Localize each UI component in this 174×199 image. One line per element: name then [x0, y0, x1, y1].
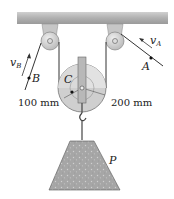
svg-text:A: A	[141, 60, 150, 73]
svg-text:vB: vB	[10, 56, 21, 70]
load-label: P	[108, 154, 117, 167]
point-b: B	[27, 72, 40, 85]
svg-text:vA: vA	[150, 34, 161, 48]
pulley-diagram: A vA B vB C 100 mm 200 mm P	[0, 0, 174, 199]
left-fixed-pulley	[41, 24, 59, 50]
point-a: A	[141, 56, 153, 73]
svg-text:B: B	[31, 72, 40, 85]
velocity-arrow-a: vA	[139, 34, 161, 48]
point-c-label: C	[64, 73, 73, 86]
velocity-arrow-b: vB	[10, 53, 31, 76]
dimension-100mm: 100 mm	[18, 97, 60, 108]
dimension-200mm: 200 mm	[111, 97, 153, 108]
right-fixed-pulley	[106, 24, 124, 50]
ceiling-beam	[17, 12, 168, 24]
point-c-marker	[70, 90, 73, 93]
